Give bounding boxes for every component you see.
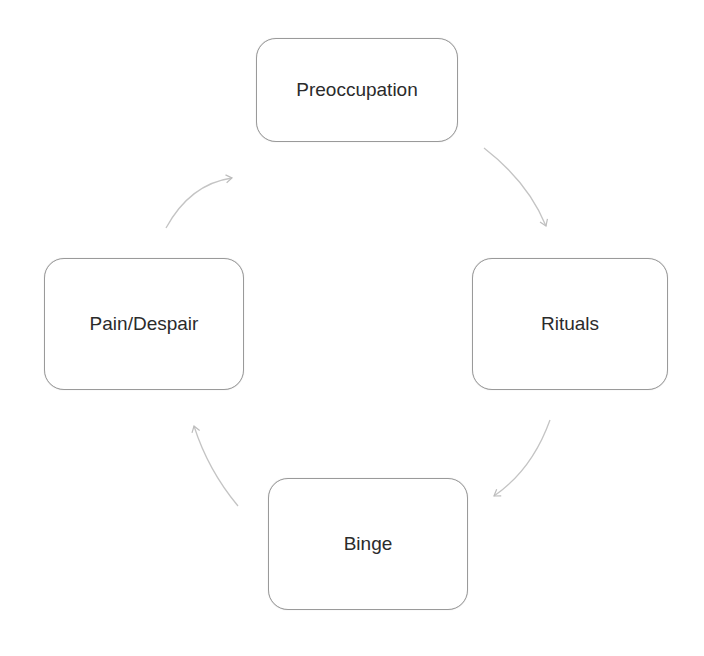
arrow-pain-despair-to-preoccupation — [166, 178, 232, 228]
node-label: Pain/Despair — [90, 313, 199, 335]
node-label: Binge — [344, 533, 393, 555]
node-label: Rituals — [541, 313, 599, 335]
node-rituals: Rituals — [472, 258, 668, 390]
arrow-rituals-to-binge — [494, 420, 550, 496]
node-binge: Binge — [268, 478, 468, 610]
node-preoccupation: Preoccupation — [256, 38, 458, 142]
arrow-preoccupation-to-rituals — [484, 148, 546, 226]
arrow-binge-to-pain-despair — [194, 426, 238, 506]
node-pain-despair: Pain/Despair — [44, 258, 244, 390]
node-label: Preoccupation — [296, 79, 417, 101]
